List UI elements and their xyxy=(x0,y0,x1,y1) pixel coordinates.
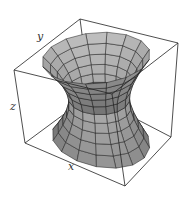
x-axis-label: x xyxy=(68,161,74,172)
surface-patch xyxy=(96,155,116,168)
surface-patch xyxy=(86,32,107,44)
surface-patch xyxy=(90,94,106,100)
z-axis-label: z xyxy=(10,101,16,112)
surface-patch xyxy=(88,43,106,54)
surface-patch xyxy=(96,144,114,156)
surface-patch xyxy=(92,100,106,107)
surface-patch xyxy=(90,54,106,65)
surface-patch xyxy=(93,107,106,115)
y-axis-label: y xyxy=(37,31,43,42)
surface-patch xyxy=(91,64,105,74)
surface-patch xyxy=(94,114,107,123)
surface-patch xyxy=(95,133,111,144)
surface-patch xyxy=(95,123,109,133)
hyperboloid-plot xyxy=(0,0,185,198)
surface-patch xyxy=(92,74,105,82)
hyperboloid-surface xyxy=(43,32,150,168)
